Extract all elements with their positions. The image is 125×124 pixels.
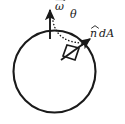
omega-vector-label: ω [55,1,64,12]
physics-diagram-figure: ω θ n dA [0,0,125,124]
n-symbol: n [90,27,97,40]
omega-glyph-stack: ω [55,1,64,12]
normal-area-element-label: n dA [90,28,114,39]
diagram-canvas [0,0,125,124]
theta-angle-label: θ [70,9,77,20]
n-hat-glyph-stack: n [90,28,97,39]
dA-symbol: dA [99,27,114,40]
omega-symbol: ω [55,0,64,13]
